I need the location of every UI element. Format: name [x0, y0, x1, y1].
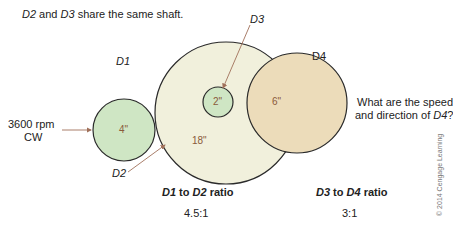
ratio-d1-d2-label: D1 to D2 ratio — [162, 186, 234, 198]
question-mark: ? — [447, 109, 453, 121]
ratio1-suffix: ratio — [207, 186, 234, 198]
ratio2-suffix: ratio — [361, 186, 388, 198]
d3-size-label: 2" — [213, 96, 222, 107]
d1-label-text: D1 — [116, 55, 130, 67]
question-line2: and direction of D4? — [355, 109, 453, 121]
ratio1-var2: D2 — [193, 186, 207, 198]
d1-label: D1 — [116, 55, 130, 67]
d3-label: D3 — [250, 13, 264, 25]
ratio-d1-d2-value: 4.5:1 — [184, 207, 208, 219]
ratio2-mid: to — [330, 186, 347, 198]
d4-label: D4 — [312, 50, 326, 62]
ratio2-var2: D4 — [347, 186, 361, 198]
d3-label-text: D3 — [250, 13, 264, 25]
d1-size-label: 4" — [119, 124, 128, 135]
d2-label: D2 — [112, 167, 126, 179]
question-var: D4 — [433, 109, 447, 121]
ratio2-var1: D3 — [316, 186, 330, 198]
ratio1-mid: to — [176, 186, 193, 198]
pulley-d4 — [247, 53, 347, 153]
d4-size-label: 6" — [272, 96, 281, 107]
question-line1: What are the speed — [357, 96, 453, 108]
ratio-d3-d4-value: 3:1 — [342, 207, 357, 219]
ratio-d3-d4-label: D3 to D4 ratio — [316, 186, 388, 198]
ratio1-var1: D1 — [162, 186, 176, 198]
question-text: and direction of — [355, 109, 433, 121]
d2-label-text: D2 — [112, 167, 126, 179]
input-direction: CW — [24, 131, 42, 143]
input-speed: 3600 rpm — [8, 118, 54, 130]
copyright-notice: © 2014 Cengage Learning — [436, 134, 443, 216]
d2-size-label: 18" — [192, 135, 207, 146]
